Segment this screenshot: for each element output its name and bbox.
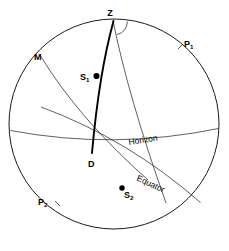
declination-point-label: D — [88, 159, 95, 169]
pole-one-label: P1 — [184, 39, 194, 50]
star-one-label: S1 — [80, 72, 90, 83]
horizon-label: Horizon — [128, 132, 159, 147]
meridian-arc — [92, 21, 114, 153]
zenith-angle-arc — [117, 22, 128, 35]
star-two-label: S2 — [124, 190, 134, 201]
zenith-label: Z — [107, 8, 113, 18]
pole-two-label: P2 — [38, 197, 48, 208]
p2-tick-icon — [55, 201, 60, 206]
p1-tick-icon — [178, 44, 183, 49]
meridian-point-label: M — [34, 52, 42, 62]
sphere-drawing-canvas: Z P1 P2 M D S1 S2 Horizon Equator — [0, 0, 229, 251]
celestial-sphere-figure: Z P1 P2 M D S1 S2 Horizon Equator — [0, 0, 229, 251]
horizon-arc — [11, 129, 219, 140]
star-one-point-marker — [93, 73, 99, 79]
equator-label: Equator — [135, 173, 166, 195]
